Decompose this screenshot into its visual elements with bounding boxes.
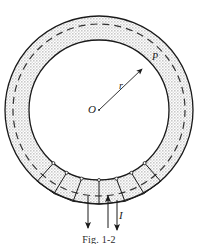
center-label: O	[88, 104, 96, 115]
toroid-figure: O r P I Fig. 1-2	[0, 0, 198, 244]
figure-canvas	[0, 0, 198, 244]
current-label: I	[119, 210, 123, 221]
point-p-label: P	[152, 52, 158, 62]
radius-label: r	[119, 81, 123, 91]
center-point	[98, 109, 100, 111]
figure-caption: Fig. 1-2	[0, 234, 198, 244]
